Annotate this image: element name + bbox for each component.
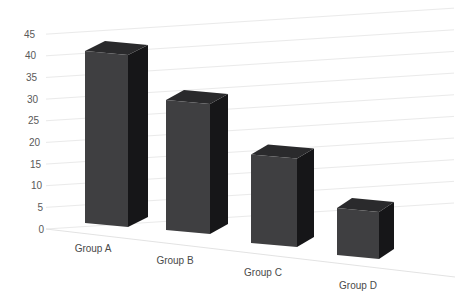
- bar-front-face: [251, 154, 297, 247]
- bar-front-face: [85, 51, 128, 227]
- category-label-group-a: Group A: [75, 243, 112, 254]
- y-axis-tick-label: 10: [31, 180, 43, 191]
- y-axis-tick-label: 30: [27, 94, 39, 105]
- bar-group-b: [166, 90, 228, 234]
- bar-side-face: [210, 94, 228, 234]
- y-axis-tick-label: 0: [38, 224, 44, 235]
- y-axis-tick-label: 35: [26, 72, 38, 83]
- y-axis-tick-label: 25: [28, 115, 40, 126]
- category-label-group-d: Group D: [339, 280, 377, 291]
- bar-side-face: [379, 202, 394, 259]
- y-axis-tick-label: 40: [25, 50, 37, 61]
- category-label-group-b: Group B: [156, 255, 194, 266]
- bar-group-d: [337, 198, 394, 259]
- 3d-bar-chart: 051015202530354045Group AGroup BGroup CG…: [0, 0, 458, 304]
- y-axis-tick-label: 5: [37, 202, 43, 213]
- bar-side-face: [128, 45, 148, 227]
- y-axis-tick-label: 20: [29, 137, 41, 148]
- bar-side-face: [297, 148, 314, 247]
- bar-front-face: [337, 208, 379, 259]
- bar-front-face: [166, 100, 210, 234]
- y-axis-tick-label: 45: [24, 29, 36, 40]
- y-axis-tick-label: 15: [30, 159, 42, 170]
- bar-group-a: [85, 41, 148, 227]
- category-label-group-c: Group C: [244, 267, 282, 278]
- chart-canvas: 051015202530354045Group AGroup BGroup CG…: [0, 0, 458, 304]
- bar-group-c: [251, 144, 314, 247]
